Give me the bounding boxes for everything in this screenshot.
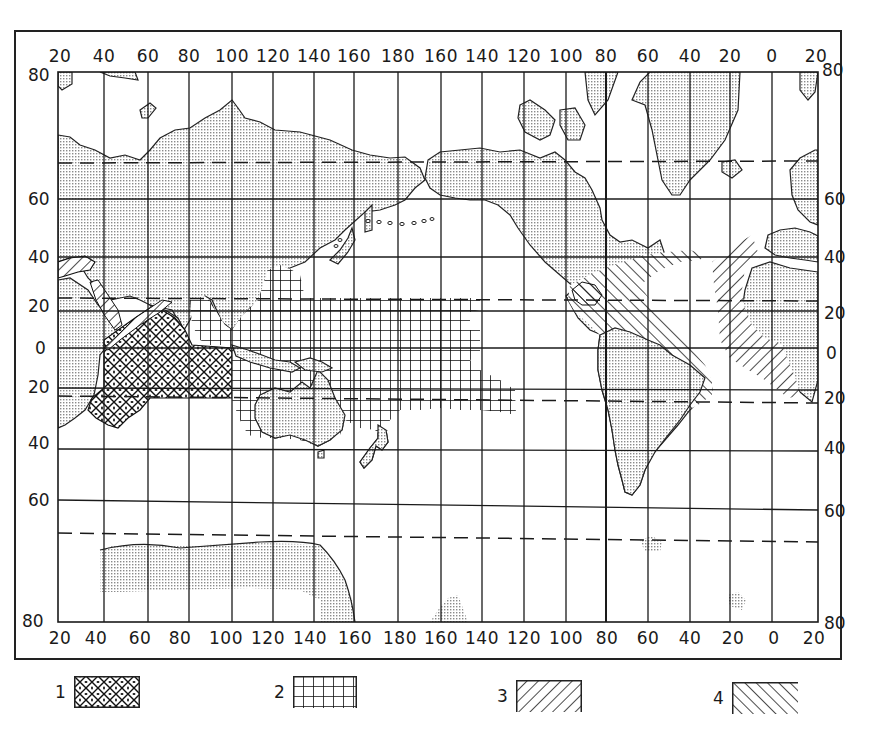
lon-label: 20 xyxy=(722,630,745,647)
lon-label: 60 xyxy=(129,630,152,647)
legend-number: 4 xyxy=(713,688,724,708)
lon-label: 40 xyxy=(93,48,116,65)
lon-label: 180 xyxy=(383,630,417,647)
lat-label: 20 xyxy=(824,305,846,322)
lon-label: 140 xyxy=(465,48,499,65)
land-svalbard xyxy=(800,72,818,100)
land-arctic-fragments xyxy=(58,72,138,90)
lon-label: 120 xyxy=(507,630,541,647)
lon-label: 160 xyxy=(337,48,371,65)
land-baffin xyxy=(560,108,585,140)
lon-label: 160 xyxy=(424,48,458,65)
lat-label: 80 xyxy=(28,67,50,84)
lat-label: 40 xyxy=(28,435,50,452)
legend-number: 1 xyxy=(55,682,66,702)
lon-label: 0 xyxy=(766,48,777,65)
land-antarctica-1 xyxy=(100,543,355,622)
lon-label: 80 xyxy=(596,630,619,647)
lat-label: 60 xyxy=(28,492,50,509)
lon-label: 60 xyxy=(637,48,660,65)
land-ellesmere xyxy=(585,72,618,115)
lat-label: 80 xyxy=(822,62,844,79)
world-map-figure: 20 40 60 80 100 120 140 160 180 160 140 … xyxy=(0,0,886,741)
land-antarctica-4 xyxy=(728,592,746,610)
lat-label: 40 xyxy=(824,440,846,457)
lon-label: 40 xyxy=(85,630,108,647)
lon-label: 0 xyxy=(768,630,779,647)
lon-label: 20 xyxy=(803,630,826,647)
lon-label: 40 xyxy=(679,48,702,65)
lon-label: 20 xyxy=(49,48,72,65)
lon-label: 60 xyxy=(637,630,660,647)
lon-label: 180 xyxy=(381,48,415,65)
lon-label: 100 xyxy=(549,630,583,647)
lon-label: 160 xyxy=(338,630,372,647)
lat-label: 20 xyxy=(824,390,846,407)
legend-item-1: 1 xyxy=(55,672,140,712)
lon-label: 80 xyxy=(169,630,192,647)
lat-label: 20 xyxy=(28,298,50,315)
legend-item-4: 4 xyxy=(713,678,798,718)
cross-hatch-dotted-swatch-icon xyxy=(74,676,140,708)
land-antarctica-3 xyxy=(640,536,662,552)
lon-label: 100 xyxy=(215,48,249,65)
lon-label: 120 xyxy=(256,48,290,65)
backward-hatch-swatch-icon xyxy=(732,682,798,714)
lat-label: 0 xyxy=(35,340,46,357)
land-antarctica-2 xyxy=(430,595,468,622)
lat-label: 60 xyxy=(824,503,846,520)
lon-label: 40 xyxy=(679,630,702,647)
lon-label: 100 xyxy=(209,630,243,647)
lon-label: 60 xyxy=(137,48,160,65)
lon-label: 160 xyxy=(424,630,458,647)
lon-label: 80 xyxy=(178,48,201,65)
forward-hatch-swatch-icon xyxy=(516,680,582,712)
lat-label: 0 xyxy=(826,345,837,362)
land-tasmania xyxy=(318,450,324,458)
lon-label: 80 xyxy=(595,48,618,65)
legend-number: 2 xyxy=(274,682,285,702)
legend-number: 3 xyxy=(497,686,508,706)
lat-label: 20 xyxy=(28,379,50,396)
lon-label: 140 xyxy=(465,630,499,647)
lon-label: 20 xyxy=(719,48,742,65)
lat-label: 80 xyxy=(22,613,44,630)
lat-label: 60 xyxy=(28,191,50,208)
lon-label: 120 xyxy=(251,630,285,647)
lat-label: 40 xyxy=(28,249,50,266)
lon-label: 140 xyxy=(297,48,331,65)
lon-label: 140 xyxy=(293,630,327,647)
grid-swatch-icon xyxy=(293,676,359,708)
lon-label: 20 xyxy=(49,630,72,647)
land-iceland xyxy=(722,160,742,178)
lon-label: 100 xyxy=(549,48,583,65)
lat-label: 60 xyxy=(824,191,846,208)
legend-item-2: 2 xyxy=(274,672,359,712)
lon-label: 120 xyxy=(507,48,541,65)
lat-label: 80 xyxy=(824,615,846,632)
legend-item-3: 3 xyxy=(497,676,582,716)
lat-label: 40 xyxy=(824,249,846,266)
